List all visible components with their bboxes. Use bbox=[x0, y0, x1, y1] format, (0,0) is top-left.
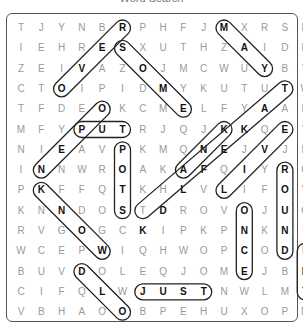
grid-cell[interactable]: K bbox=[114, 100, 132, 118]
grid-cell[interactable]: C bbox=[32, 242, 50, 260]
grid-cell[interactable]: C bbox=[12, 283, 30, 301]
grid-cell[interactable]: O bbox=[256, 242, 274, 260]
grid-cell[interactable]: D bbox=[296, 141, 303, 159]
grid-cell[interactable]: T bbox=[114, 181, 132, 199]
grid-cell[interactable]: W bbox=[93, 242, 111, 260]
grid-cell[interactable]: P bbox=[12, 181, 30, 199]
grid-cell[interactable]: B bbox=[134, 303, 152, 321]
grid-cell[interactable]: Q bbox=[174, 141, 192, 159]
grid-cell[interactable]: N bbox=[53, 202, 71, 220]
grid-cell[interactable]: X bbox=[235, 303, 253, 321]
grid-cell[interactable]: F bbox=[296, 222, 303, 240]
grid-cell[interactable]: V bbox=[215, 202, 233, 220]
grid-cell[interactable]: O bbox=[195, 202, 213, 220]
grid-cell[interactable]: R bbox=[114, 19, 132, 37]
grid-cell[interactable]: I bbox=[12, 39, 30, 57]
grid-cell[interactable]: J bbox=[195, 121, 213, 139]
grid-cell[interactable]: W bbox=[235, 283, 253, 301]
grid-cell[interactable]: R bbox=[276, 161, 294, 179]
grid-cell[interactable]: D bbox=[276, 242, 294, 260]
grid-cell[interactable]: V bbox=[93, 141, 111, 159]
grid-cell[interactable]: O bbox=[134, 60, 152, 78]
grid-cell[interactable]: L bbox=[195, 100, 213, 118]
grid-cell[interactable]: Z bbox=[215, 39, 233, 57]
grid-cell[interactable]: D bbox=[134, 80, 152, 98]
grid-cell[interactable]: H bbox=[195, 303, 213, 321]
grid-cell[interactable]: O bbox=[114, 161, 132, 179]
grid-cell[interactable]: J bbox=[195, 19, 213, 37]
grid-cell[interactable]: D bbox=[73, 202, 91, 220]
grid-cell[interactable]: Y bbox=[53, 19, 71, 37]
grid-cell[interactable]: L bbox=[114, 263, 132, 281]
grid-cell[interactable]: H bbox=[154, 181, 172, 199]
grid-cell[interactable]: J bbox=[32, 19, 50, 37]
grid-cell[interactable]: D bbox=[73, 263, 91, 281]
grid-cell[interactable]: U bbox=[154, 39, 172, 57]
grid-cell[interactable]: Y bbox=[256, 60, 274, 78]
grid-cell[interactable]: R bbox=[296, 39, 303, 57]
grid-cell[interactable]: T bbox=[134, 202, 152, 220]
grid-cell[interactable]: I bbox=[32, 283, 50, 301]
grid-cell[interactable]: Y bbox=[174, 80, 192, 98]
grid-cell[interactable]: U bbox=[93, 121, 111, 139]
grid-cell[interactable]: M bbox=[12, 121, 30, 139]
grid-cell[interactable]: B bbox=[93, 19, 111, 37]
grid-cell[interactable]: E bbox=[235, 263, 253, 281]
grid-cell[interactable]: M bbox=[296, 303, 303, 321]
grid-cell[interactable]: F bbox=[256, 181, 274, 199]
grid-cell[interactable]: U bbox=[32, 263, 50, 281]
grid-cell[interactable]: G bbox=[93, 222, 111, 240]
grid-cell[interactable]: Z bbox=[114, 60, 132, 78]
grid-cell[interactable]: O bbox=[114, 303, 132, 321]
grid-cell[interactable]: K bbox=[256, 222, 274, 240]
grid-cell[interactable]: M bbox=[154, 80, 172, 98]
grid-cell[interactable]: W bbox=[174, 242, 192, 260]
grid-cell[interactable]: F bbox=[195, 161, 213, 179]
grid-cell[interactable]: V bbox=[195, 181, 213, 199]
grid-cell[interactable]: B bbox=[276, 263, 294, 281]
grid-cell[interactable]: X bbox=[235, 19, 253, 37]
grid-cell[interactable]: X bbox=[134, 39, 152, 57]
grid-cell[interactable]: M bbox=[276, 283, 294, 301]
grid-cell[interactable]: P bbox=[93, 80, 111, 98]
grid-cell[interactable]: Y bbox=[256, 161, 274, 179]
grid-cell[interactable]: I bbox=[53, 60, 71, 78]
grid-cell[interactable]: I bbox=[235, 181, 253, 199]
grid-cell[interactable]: Q bbox=[174, 121, 192, 139]
grid-cell[interactable]: Q bbox=[154, 263, 172, 281]
grid-cell[interactable]: K bbox=[154, 161, 172, 179]
grid-cell[interactable]: Y bbox=[235, 100, 253, 118]
grid-cell[interactable]: K bbox=[195, 222, 213, 240]
grid-cell[interactable]: E bbox=[32, 60, 50, 78]
grid-cell[interactable]: V bbox=[73, 60, 91, 78]
grid-cell[interactable]: T bbox=[296, 283, 303, 301]
grid-cell[interactable]: E bbox=[53, 242, 71, 260]
grid-cell[interactable]: R bbox=[134, 121, 152, 139]
grid-cell[interactable]: K bbox=[134, 181, 152, 199]
grid-cell[interactable]: C bbox=[114, 222, 132, 240]
grid-cell[interactable]: A bbox=[73, 141, 91, 159]
grid-cell[interactable]: H bbox=[195, 39, 213, 57]
grid-cell[interactable]: E bbox=[53, 141, 71, 159]
grid-cell[interactable]: T bbox=[12, 19, 30, 37]
grid-cell[interactable]: G bbox=[296, 161, 303, 179]
grid-cell[interactable]: O bbox=[53, 80, 71, 98]
grid-cell[interactable]: L bbox=[296, 242, 303, 260]
grid-cell[interactable]: M bbox=[154, 141, 172, 159]
grid-cell[interactable]: F bbox=[53, 283, 71, 301]
grid-cell[interactable]: J bbox=[154, 60, 172, 78]
grid-cell[interactable]: M bbox=[215, 263, 233, 281]
grid-cell[interactable]: Q bbox=[134, 242, 152, 260]
grid-cell[interactable]: T bbox=[114, 121, 132, 139]
grid-cell[interactable]: U bbox=[215, 303, 233, 321]
grid-cell[interactable]: W bbox=[12, 242, 30, 260]
grid-cell[interactable]: Q bbox=[215, 161, 233, 179]
grid-cell[interactable]: I bbox=[32, 141, 50, 159]
grid-cell[interactable]: R bbox=[174, 202, 192, 220]
grid-cell[interactable]: U bbox=[215, 80, 233, 98]
grid-cell[interactable]: H bbox=[296, 19, 303, 37]
grid-cell[interactable]: K bbox=[215, 121, 233, 139]
grid-cell[interactable]: Z bbox=[12, 60, 30, 78]
grid-cell[interactable]: K bbox=[134, 222, 152, 240]
grid-cell[interactable]: S bbox=[114, 202, 132, 220]
